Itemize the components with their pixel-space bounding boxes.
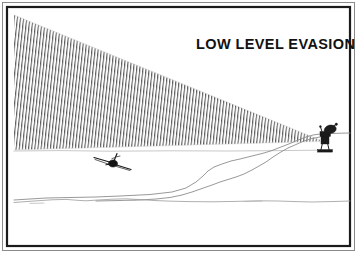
aircraft-nose bbox=[106, 164, 109, 165]
radar-feed-horn bbox=[335, 123, 337, 125]
aircraft bbox=[94, 154, 131, 171]
radar-tower-body bbox=[321, 136, 329, 144]
page-title: LOW LEVEL EVASION bbox=[196, 37, 355, 52]
ground-line-foreground bbox=[14, 199, 350, 203]
radar-base-pad bbox=[318, 150, 333, 153]
aircraft-fuselage bbox=[108, 160, 117, 167]
radar-station bbox=[318, 123, 338, 152]
radar-mast-tip bbox=[319, 126, 321, 128]
illustration-figure: LOW LEVEL EVASION bbox=[0, 0, 357, 253]
radar-dish bbox=[324, 125, 336, 133]
